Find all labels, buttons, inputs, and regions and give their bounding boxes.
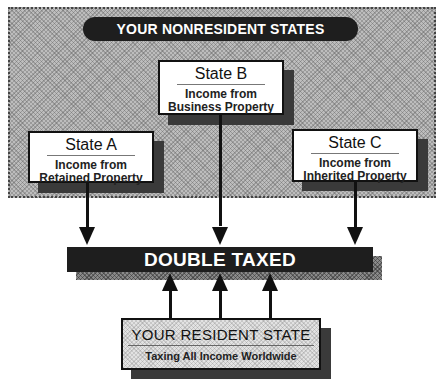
nonresident-states-title: YOUR NONRESIDENT STATES <box>83 17 358 41</box>
resident-state-subtitle: Taxing All Income Worldwide <box>145 350 296 362</box>
arrow-down-icon <box>79 227 95 245</box>
state-c-line2: Inherited Property <box>303 170 406 183</box>
state-a-box: State A Income from Retained Property <box>28 131 154 183</box>
resident-connector <box>269 290 272 319</box>
resident-connector <box>169 290 172 319</box>
arrow-down-icon <box>347 227 363 245</box>
arrow-up-icon <box>212 273 228 291</box>
state-c-box: State C Income from Inherited Property <box>292 129 418 182</box>
state-b-connector <box>219 114 222 226</box>
state-c-title: State C <box>311 134 399 154</box>
double-taxed-label: DOUBLE TAXED <box>67 247 373 272</box>
arrow-down-icon <box>212 227 228 245</box>
state-b-line2: Business Property <box>168 101 274 114</box>
state-b-title: State B <box>177 65 265 85</box>
state-a-connector <box>86 182 89 227</box>
state-a-title: State A <box>47 136 135 156</box>
arrow-up-icon <box>162 273 178 291</box>
resident-connector <box>219 290 222 319</box>
state-a-line2: Retained Property <box>39 172 142 185</box>
arrow-up-icon <box>262 273 278 291</box>
state-c-connector <box>354 181 357 227</box>
resident-state-title: YOUR RESIDENT STATE <box>128 326 313 346</box>
resident-state-box: YOUR RESIDENT STATE Taxing All Income Wo… <box>121 318 321 370</box>
state-b-box: State B Income from Business Property <box>158 60 284 115</box>
